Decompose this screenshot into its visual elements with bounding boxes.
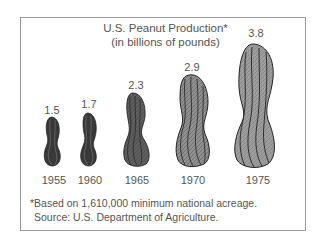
peanut-icon-1970: [176, 75, 209, 167]
value-label-1955: 1.5: [32, 104, 72, 116]
year-label-1955: 1955: [34, 174, 74, 186]
year-label-1965: 1965: [117, 174, 157, 186]
year-label-1960: 1960: [70, 174, 110, 186]
value-label-1970: 2.9: [172, 61, 212, 73]
year-label-1975: 1975: [238, 174, 278, 186]
year-label-1970: 1970: [173, 174, 213, 186]
peanut-icon-1960: [81, 113, 97, 166]
peanut-icon-1965: [124, 93, 149, 166]
source-note: Source: U.S. Department of Agriculture.: [34, 211, 218, 223]
footnote: *Based on 1,610,000 minimum national acr…: [30, 197, 257, 209]
peanut-icon-1955: [44, 117, 60, 166]
value-label-1975: 3.8: [236, 27, 276, 39]
peanut-icon-1975: [235, 44, 275, 167]
value-label-1960: 1.7: [69, 98, 109, 110]
value-label-1965: 2.3: [116, 79, 156, 91]
